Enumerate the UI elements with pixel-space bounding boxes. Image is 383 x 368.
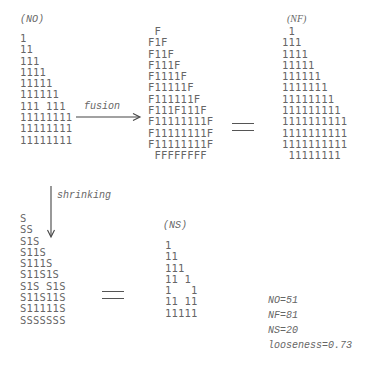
shrinking-label: shrinking — [57, 190, 111, 201]
fusion-label: fusion — [84, 101, 120, 112]
fusion-arrow-icon — [76, 112, 146, 122]
grid-row: 1111111111 — [282, 116, 347, 127]
grid-row: 111 — [282, 37, 347, 48]
grid-row: 11 — [165, 251, 198, 262]
grid-row: F1F — [148, 37, 213, 48]
grid-row: 11111111 — [20, 123, 72, 134]
nf-label: (NF) — [287, 13, 306, 24]
no-label: (NO) — [20, 14, 44, 25]
grid-row: 11111 — [165, 308, 198, 319]
grid-row: SS — [20, 224, 66, 235]
nf-grid: 1111111111111111111111111111111111111111… — [282, 26, 347, 162]
stat-looseness: looseness=0.73 — [268, 340, 352, 351]
grid-row: 11111111 — [20, 135, 72, 146]
grid-row: S11111S — [20, 303, 66, 314]
ns-label: (NS) — [163, 220, 187, 231]
fused-grid: FF1FF11FF111FF1111FF11111FF111111FF111F1… — [148, 26, 213, 162]
stat-ns: NS=20 — [268, 325, 298, 336]
shrunk-grid: SSSS1SS11SS111SS11S1SS1S S1SS11S11SS1111… — [20, 213, 66, 326]
no-grid: 111111111111111111111111 111111111111111… — [20, 33, 72, 146]
ns-grid: 11111111 11 111 1111111 — [165, 240, 198, 319]
grid-row: 11 — [20, 44, 72, 55]
grid-row: FFFFFFFF — [148, 150, 213, 161]
equals-sign-bottom — [102, 291, 124, 299]
grid-row: SSSSSSS — [20, 315, 66, 326]
grid-row: 11111111 — [282, 150, 347, 161]
equals-sign-top — [232, 123, 254, 131]
grid-row: F11111111F — [148, 116, 213, 127]
stat-no: NO=51 — [268, 295, 298, 306]
stat-nf: NF=81 — [268, 310, 298, 321]
